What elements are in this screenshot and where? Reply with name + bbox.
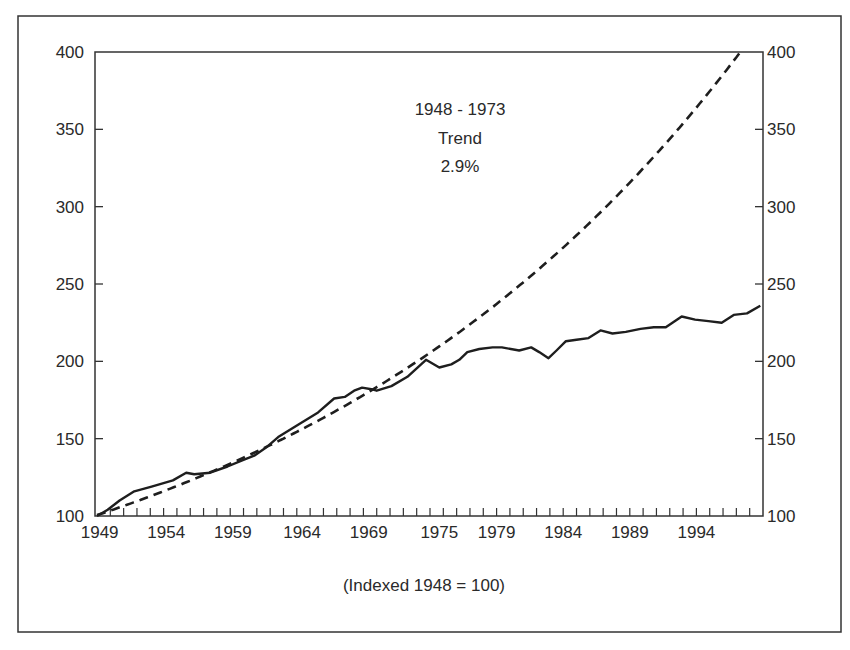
y-tick-label-right: 400 <box>767 43 795 62</box>
trend-annotation: 1948 - 1973 Trend 2.9% <box>415 100 506 176</box>
y-tick-label-right: 250 <box>767 275 795 294</box>
y-tick-label-left: 100 <box>56 507 84 526</box>
x-tick-label: 1949 <box>81 523 119 542</box>
annotation-period: 1948 - 1973 <box>415 100 506 119</box>
y-tick-label-right: 350 <box>767 120 795 139</box>
x-tick-label: 1975 <box>420 523 458 542</box>
x-tick-label: 1954 <box>147 523 185 542</box>
y-tick-label-right: 150 <box>767 430 795 449</box>
plot-area <box>95 52 763 516</box>
y-tick-label-left: 400 <box>56 43 84 62</box>
y-tick-label-right: 200 <box>767 352 795 371</box>
x-tick-label: 1984 <box>544 523 582 542</box>
annotation-label: Trend <box>438 129 482 148</box>
y-tick-label-left: 200 <box>56 352 84 371</box>
x-tick-label: 1979 <box>478 523 516 542</box>
index-caption: (Indexed 1948 = 100) <box>343 576 505 595</box>
y-axis-right: 100150200250300350400 <box>755 43 795 526</box>
y-axis-left: 100150200250300350400 <box>56 43 103 526</box>
y-tick-label-left: 150 <box>56 430 84 449</box>
x-tick-label: 1994 <box>677 523 715 542</box>
x-axis: 1949195419591964196919751979198419891994 <box>81 508 750 542</box>
line-chart: 100150200250300350400 100150200250300350… <box>0 0 850 650</box>
x-tick-label: 1959 <box>214 523 252 542</box>
y-tick-label-right: 300 <box>767 198 795 217</box>
y-tick-label-right: 100 <box>767 507 795 526</box>
y-tick-label-left: 300 <box>56 198 84 217</box>
y-tick-label-left: 250 <box>56 275 84 294</box>
x-tick-label: 1989 <box>611 523 649 542</box>
x-tick-label: 1969 <box>350 523 388 542</box>
trend-line-dashed <box>97 52 740 515</box>
annotation-rate: 2.9% <box>441 157 480 176</box>
actual-series-line <box>97 306 760 516</box>
x-tick-label: 1964 <box>283 523 321 542</box>
y-tick-label-left: 350 <box>56 120 84 139</box>
